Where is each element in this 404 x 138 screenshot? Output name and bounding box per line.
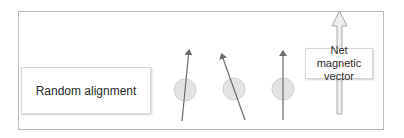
net-magnetic-vector-label: Net magnetic vector <box>305 48 373 79</box>
random-alignment-label: Random alignment <box>21 67 151 114</box>
random-alignment-text: Random alignment <box>36 84 137 98</box>
spin-2 <box>222 54 246 120</box>
net-magnetic-vector-text: Net magnetic vector <box>308 44 370 83</box>
spin-1 <box>174 50 196 121</box>
spin-3 <box>272 51 294 120</box>
